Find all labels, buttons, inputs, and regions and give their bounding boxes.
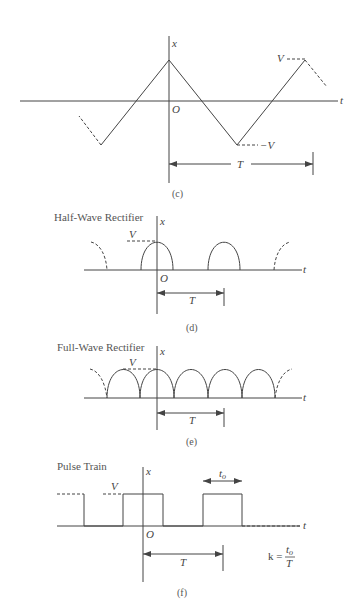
peak-label: V bbox=[277, 52, 285, 64]
trough-label: −V bbox=[260, 139, 275, 151]
waveform-figure: x t O V −V T (c) Half-Wave Rectifier x t… bbox=[0, 0, 363, 611]
dashed-left-lobe bbox=[91, 242, 107, 270]
period-label: T bbox=[180, 556, 187, 568]
duty-num-sub: o bbox=[289, 548, 293, 557]
dashed-left-lobe bbox=[90, 369, 107, 398]
duty-numerator: to bbox=[286, 543, 293, 557]
pulse-width-sub: o bbox=[222, 472, 226, 481]
period-label: T bbox=[189, 414, 196, 426]
caption-c: (c) bbox=[172, 188, 183, 200]
duty-k-label: k = bbox=[268, 550, 282, 562]
full-wave-lobe-3 bbox=[174, 370, 208, 399]
x-axis-label: x bbox=[159, 345, 165, 357]
origin-label: O bbox=[160, 272, 168, 284]
t-axis-label: t bbox=[303, 519, 307, 531]
dashed-left-extension bbox=[79, 116, 101, 145]
triangle-waveform bbox=[101, 60, 305, 145]
dashed-right-extension bbox=[305, 60, 327, 87]
t-axis-label: t bbox=[340, 94, 344, 106]
origin-label: O bbox=[146, 528, 154, 540]
title-half-wave: Half-Wave Rectifier bbox=[54, 211, 144, 223]
x-axis-label: x bbox=[145, 465, 151, 477]
title-full-wave: Full-Wave Rectifier bbox=[57, 341, 145, 353]
duty-denominator: T bbox=[286, 557, 293, 569]
period-label: T bbox=[237, 158, 244, 170]
pulse-width-label: to bbox=[219, 467, 226, 481]
caption-d: (d) bbox=[186, 322, 198, 334]
period-label: T bbox=[189, 294, 196, 306]
caption-f: (f) bbox=[177, 587, 187, 599]
dashed-right-lobe bbox=[275, 369, 292, 398]
peak-label: V bbox=[111, 480, 119, 492]
half-wave-lobe-2 bbox=[208, 242, 240, 270]
x-axis-label: x bbox=[171, 37, 177, 49]
panel-f-pulse-train bbox=[57, 467, 300, 582]
full-wave-lobe-5 bbox=[242, 370, 275, 399]
caption-e: (e) bbox=[186, 436, 197, 448]
peak-label: V bbox=[129, 228, 137, 240]
title-pulse-train: Pulse Train bbox=[57, 460, 107, 472]
full-wave-lobe-4 bbox=[208, 370, 242, 399]
peak-label: V bbox=[129, 356, 137, 368]
dashed-right-lobe bbox=[274, 242, 290, 270]
full-wave-lobe-1 bbox=[107, 370, 140, 399]
x-axis-label: x bbox=[159, 215, 165, 227]
t-axis-label: t bbox=[303, 391, 307, 403]
pulse-waveform bbox=[84, 494, 242, 526]
origin-label: O bbox=[172, 103, 180, 115]
t-axis-label: t bbox=[303, 263, 307, 275]
